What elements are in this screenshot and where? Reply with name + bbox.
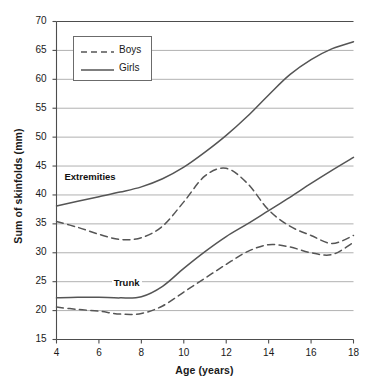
y-tick-label: 60 — [21, 73, 47, 84]
y-tick-label: 45 — [21, 160, 47, 171]
y-tick-label: 55 — [21, 102, 47, 113]
y-tick-label: 65 — [21, 44, 47, 55]
x-tick-label: 4 — [44, 347, 70, 358]
legend-key-dashed-icon — [81, 50, 114, 52]
legend-item-girls: Girls — [74, 60, 153, 78]
chart-plot-area — [0, 0, 375, 386]
x-axis-title: Age (years) — [56, 364, 353, 376]
y-tick-label: 70 — [21, 15, 47, 26]
y-tick-label: 20 — [21, 304, 47, 315]
y-tick-label: 25 — [21, 275, 47, 286]
series-annotation-trunk: Trunk — [112, 277, 142, 288]
legend-label-boys: Boys — [119, 44, 141, 55]
x-tick-label: 6 — [86, 347, 112, 358]
x-tick-label: 12 — [213, 347, 239, 358]
chart-legend: Boys Girls — [73, 36, 152, 81]
y-tick-label: 30 — [21, 246, 47, 257]
x-tick-label: 14 — [256, 347, 282, 358]
x-tick-label: 8 — [128, 347, 154, 358]
x-tick-label: 10 — [171, 347, 197, 358]
legend-label-girls: Girls — [119, 62, 140, 73]
y-tick-label: 40 — [21, 188, 47, 199]
legend-item-boys: Boys — [74, 42, 153, 60]
series-annotation-extremities: Extremities — [62, 171, 117, 182]
y-tick-label: 35 — [21, 217, 47, 228]
x-tick-label: 18 — [341, 347, 367, 358]
chart-figure: Sum of skinfolds (mm) Age (years) 706560… — [0, 0, 375, 386]
y-tick-label: 15 — [21, 333, 47, 344]
legend-key-solid-icon — [81, 68, 114, 70]
x-tick-label: 16 — [298, 347, 324, 358]
y-tick-label: 50 — [21, 131, 47, 142]
